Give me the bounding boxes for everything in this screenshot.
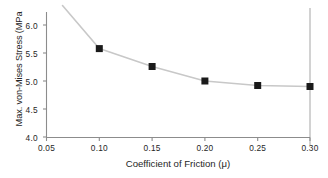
data-point-marker xyxy=(149,63,156,70)
data-markers xyxy=(96,45,314,90)
x-tick-label-0-10: 0.10 xyxy=(79,143,119,153)
x-tick-label-0-30: 0.30 xyxy=(290,143,328,153)
data-point-marker xyxy=(201,78,208,85)
y-tick-label-4-0: 4.0 xyxy=(12,133,38,143)
x-tick-label-0-20: 0.20 xyxy=(185,143,225,153)
x-axis-title: Coefficient of Friction (μ) xyxy=(46,158,310,169)
chart-figure: Max. von-Mises Stress (MPa 6.0 5.5 5.0 4… xyxy=(0,0,328,178)
y-tick-label-5-0: 5.0 xyxy=(12,77,38,87)
data-point-marker xyxy=(96,45,103,52)
y-tick-label-6-0: 6.0 xyxy=(12,21,38,31)
y-tick-label-4-5: 4.5 xyxy=(12,105,38,115)
data-point-marker xyxy=(307,83,314,90)
y-tick-label-5-5: 5.5 xyxy=(12,49,38,59)
x-tick-label-0-15: 0.15 xyxy=(132,143,172,153)
x-tick-label-0-25: 0.25 xyxy=(238,143,278,153)
x-tick-label-0-05: 0.05 xyxy=(27,143,67,153)
data-point-marker xyxy=(254,82,261,89)
